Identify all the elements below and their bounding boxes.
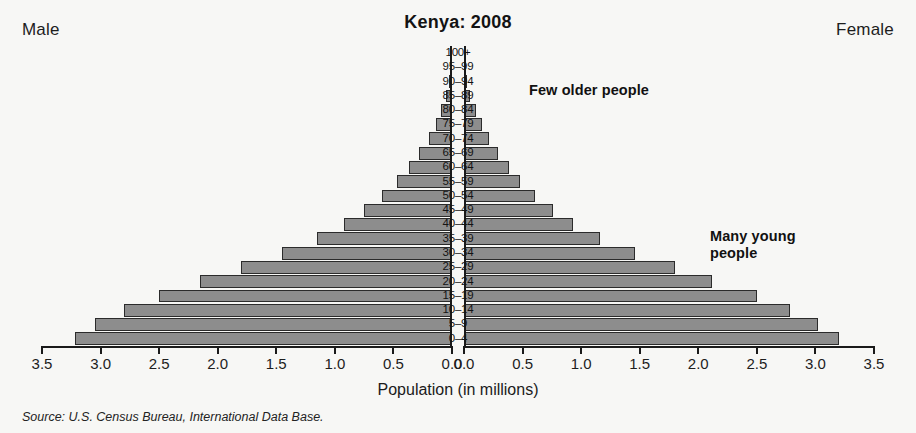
bar-female-75–79 xyxy=(464,118,874,131)
bar-fill xyxy=(464,232,600,245)
x-axis-title: Population (in millions) xyxy=(0,381,916,399)
bar-fill xyxy=(464,261,675,274)
male-bars-group xyxy=(42,46,452,346)
tick-label-left-1.0: 1.0 xyxy=(324,355,345,372)
annotation-many-young-people: Many young people xyxy=(710,228,796,262)
bar-male-75–79 xyxy=(42,118,452,131)
tick-label-left-3.0: 3.0 xyxy=(90,355,111,372)
bar-female-35–39 xyxy=(464,232,874,245)
bar-male-85–89 xyxy=(42,90,452,103)
bar-male-80–84 xyxy=(42,104,452,117)
tick-right-2.0 xyxy=(697,346,699,354)
bar-female-15–19 xyxy=(464,290,874,303)
bar-male-5–9 xyxy=(42,318,452,331)
bar-fill xyxy=(464,275,712,288)
tick-right-0.0 xyxy=(463,346,465,354)
annotation-young-line1: Many young xyxy=(710,228,796,244)
bar-fill xyxy=(282,247,452,260)
bar-male-20–24 xyxy=(42,275,452,288)
bar-male-10–14 xyxy=(42,304,452,317)
bar-fill xyxy=(159,290,452,303)
bar-male-25–29 xyxy=(42,261,452,274)
bar-male-95–99 xyxy=(42,61,452,74)
age-label-25–29: 25–29 xyxy=(443,260,474,273)
bar-female-40–44 xyxy=(464,218,874,231)
bar-male-50–54 xyxy=(42,190,452,203)
bar-male-70–74 xyxy=(42,132,452,145)
age-group-labels: 100+95–9990–9485–8980–8475–7970–7465–696… xyxy=(452,46,464,346)
bar-female-5–9 xyxy=(464,318,874,331)
bar-fill xyxy=(464,218,573,231)
tick-right-3.5 xyxy=(873,346,875,354)
age-label-55–59: 55–59 xyxy=(443,175,474,188)
bar-male-45–49 xyxy=(42,204,452,217)
bar-fill xyxy=(344,218,452,231)
tick-left-3.0 xyxy=(100,346,102,354)
bar-fill xyxy=(464,247,635,260)
population-pyramid-figure: Male Female Kenya: 2008 100+95–9990–9485… xyxy=(0,0,916,433)
bar-male-15–19 xyxy=(42,290,452,303)
age-label-15–19: 15–19 xyxy=(443,289,474,302)
tick-right-0.5 xyxy=(522,346,524,354)
bar-male-30–34 xyxy=(42,247,452,260)
bar-female-65–69 xyxy=(464,147,874,160)
tick-label-right-3.5: 3.5 xyxy=(864,355,885,372)
age-label-40–44: 40–44 xyxy=(443,217,474,230)
tick-label-left-0.5: 0.5 xyxy=(383,355,404,372)
bar-female-20–24 xyxy=(464,275,874,288)
bar-female-45–49 xyxy=(464,204,874,217)
bar-female-80–84 xyxy=(464,104,874,117)
tick-label-left-1.5: 1.5 xyxy=(266,355,287,372)
bar-female-25–29 xyxy=(464,261,874,274)
tick-label-left-2.0: 2.0 xyxy=(207,355,228,372)
age-label-100+: 100+ xyxy=(445,46,470,59)
tick-label-left-0.0: 0.0 xyxy=(442,355,463,372)
bar-fill xyxy=(241,261,452,274)
x-axis: 3.50.03.00.52.51.02.01.51.52.01.02.50.53… xyxy=(0,346,916,380)
x-axis-baseline-right xyxy=(464,346,874,348)
bar-male-0–4 xyxy=(42,332,452,345)
bar-fill xyxy=(464,290,757,303)
bar-male-60–64 xyxy=(42,161,452,174)
female-bars-group xyxy=(464,46,874,346)
tick-left-0.0 xyxy=(451,346,453,354)
age-label-35–39: 35–39 xyxy=(443,232,474,245)
tick-label-right-0.5: 0.5 xyxy=(512,355,533,372)
bar-fill xyxy=(464,204,553,217)
age-label-65–69: 65–69 xyxy=(443,146,474,159)
bar-female-100+ xyxy=(464,47,874,60)
bar-female-70–74 xyxy=(464,132,874,145)
bar-fill xyxy=(464,318,818,331)
chart-title: Kenya: 2008 xyxy=(0,12,916,33)
age-label-10–14: 10–14 xyxy=(443,303,474,316)
bar-male-65–69 xyxy=(42,147,452,160)
bar-female-85–89 xyxy=(464,90,874,103)
bar-female-0–4 xyxy=(464,332,874,345)
age-label-20–24: 20–24 xyxy=(443,275,474,288)
tick-right-1.0 xyxy=(580,346,582,354)
bar-fill xyxy=(200,275,452,288)
tick-label-right-2.5: 2.5 xyxy=(746,355,767,372)
tick-left-2.5 xyxy=(158,346,160,354)
age-label-85–89: 85–89 xyxy=(443,89,474,102)
bar-female-60–64 xyxy=(464,161,874,174)
bar-fill xyxy=(75,332,452,345)
tick-label-right-1.5: 1.5 xyxy=(629,355,650,372)
bar-female-50–54 xyxy=(464,190,874,203)
source-note: Source: U.S. Census Bureau, Internationa… xyxy=(22,410,324,424)
tick-left-2.0 xyxy=(217,346,219,354)
tick-left-1.5 xyxy=(275,346,277,354)
bar-male-90–94 xyxy=(42,75,452,88)
bar-female-30–34 xyxy=(464,247,874,260)
age-label-0–4: 0–4 xyxy=(449,332,468,345)
annotation-few-older-people: Few older people xyxy=(529,82,649,99)
tick-label-right-1.0: 1.0 xyxy=(571,355,592,372)
bar-female-95–99 xyxy=(464,61,874,74)
age-label-30–34: 30–34 xyxy=(443,246,474,259)
age-label-90–94: 90–94 xyxy=(443,75,474,88)
bar-fill xyxy=(464,190,535,203)
bar-fill xyxy=(464,332,839,345)
bar-male-35–39 xyxy=(42,232,452,245)
tick-right-3.0 xyxy=(814,346,816,354)
tick-left-1.0 xyxy=(334,346,336,354)
